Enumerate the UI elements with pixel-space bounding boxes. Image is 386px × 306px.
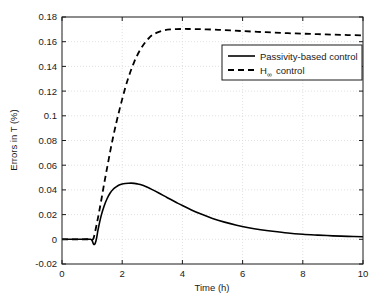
y-tick-label: 0.1 [44,110,57,121]
y-tick-label: 0.08 [39,135,58,146]
y-tick-label: -0.02 [35,258,57,269]
chart-legend: Passivity-based control H ∞ control [222,45,362,80]
x-axis-label: Time (h) [194,282,229,293]
legend-label-hinf-subscript: ∞ [267,71,272,78]
y-tick-label: 0.18 [39,11,58,22]
legend-label-passivity: Passivity-based control [260,51,358,62]
x-tick-label: 10 [358,268,369,279]
x-tick-label: 2 [120,268,125,279]
legend-label-hinf-rest: control [276,65,305,76]
x-tick-label: 6 [240,268,245,279]
y-tick-label: 0.04 [39,184,58,195]
y-tick-label: 0.02 [39,209,58,220]
x-tick-label: 0 [59,268,64,279]
y-axis-label: Errors in T (%) [8,109,19,170]
x-tick-label: 8 [300,268,305,279]
x-tick-label: 4 [180,268,185,279]
y-tick-label: 0.06 [39,160,58,171]
y-tick-label: 0 [52,234,57,245]
legend-label-hinf-base: H [260,65,267,76]
y-tick-label: 0.14 [39,61,58,72]
y-tick-label: 0.16 [39,36,58,47]
figure-container: -0.0200.020.040.060.080.10.120.140.160.1… [0,0,386,306]
line-chart: -0.0200.020.040.060.080.10.120.140.160.1… [0,0,386,306]
y-tick-label: 0.12 [39,86,58,97]
